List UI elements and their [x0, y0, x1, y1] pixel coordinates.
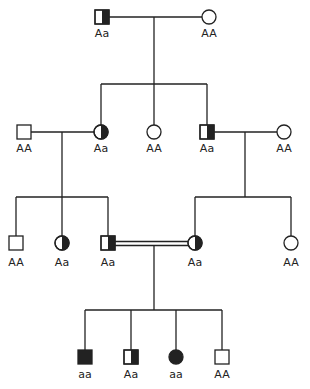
genotype-label: Aa — [101, 256, 115, 269]
pedigree-diagram: Aa AA AA Aa AA Aa AA — [0, 0, 310, 389]
individual-III-5 — [284, 236, 298, 250]
individual-II-1 — [17, 125, 31, 139]
sibship-line-II — [101, 84, 207, 125]
individual-I-2 — [202, 10, 216, 24]
sibship-line-III-left — [16, 197, 108, 236]
genotype-label: Aa — [95, 27, 109, 40]
consanguineous-mating-line — [115, 242, 188, 311]
individual-II-5 — [277, 125, 291, 139]
genotype-label: Aa — [188, 256, 202, 269]
individual-II-4 — [200, 125, 214, 139]
individual-III-3 — [101, 236, 115, 250]
genotype-label: AA — [201, 27, 217, 40]
individual-III-1 — [9, 236, 23, 250]
genotype-label: AA — [8, 256, 24, 269]
sibship-line-III-right — [195, 197, 291, 236]
genotype-label: Aa — [55, 256, 69, 269]
genotype-label: Aa — [124, 368, 138, 381]
sibship-line-IV — [85, 310, 222, 350]
individual-I-1 — [95, 10, 109, 24]
individual-III-4 — [188, 236, 202, 250]
genotype-label: AA — [283, 256, 299, 269]
genotype-label: AA — [146, 142, 162, 155]
individual-II-3 — [147, 125, 161, 139]
genotype-label: Aa — [94, 142, 108, 155]
genotype-label: aa — [78, 368, 91, 381]
mating-line-II-right — [214, 132, 277, 197]
genotype-label: AA — [16, 142, 32, 155]
individual-IV-1 — [78, 350, 92, 364]
genotype-label: Aa — [200, 142, 214, 155]
genotype-label: aa — [169, 368, 182, 381]
individual-IV-2 — [124, 350, 138, 364]
individual-III-2 — [55, 236, 69, 250]
individual-IV-4 — [215, 350, 229, 364]
mating-line-I — [109, 17, 202, 84]
individual-II-2 — [94, 125, 108, 139]
mating-line-II-left — [31, 132, 94, 197]
individual-IV-3 — [169, 350, 183, 364]
genotype-label: AA — [214, 368, 230, 381]
genotype-label: AA — [276, 142, 292, 155]
